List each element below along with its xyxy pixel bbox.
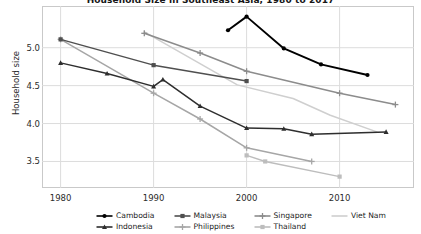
data-point-marker: [226, 28, 230, 32]
legend-label: Philippines: [194, 222, 235, 232]
series-viet-nam: [144, 32, 376, 132]
x-tick-label: 2010: [320, 194, 360, 203]
x-tick-label: 1980: [41, 194, 81, 203]
legend-label: Viet Nam: [351, 211, 386, 221]
data-point-marker: [263, 159, 267, 163]
x-tick-label: 1990: [134, 194, 174, 203]
legend-label: Thailand: [274, 222, 307, 232]
household-size-line-chart: Household Size in Southeast Asia, 1980 t…: [0, 0, 421, 234]
legend-item-viet-nam[interactable]: Viet Nam: [331, 210, 396, 221]
data-point-marker: [180, 213, 184, 217]
legend-swatch-none-icon: [331, 211, 348, 221]
legend-swatch-square-icon: [174, 211, 191, 221]
legend-item-indonesia[interactable]: Indonesia: [96, 221, 165, 232]
legend-swatch-circle-icon: [96, 211, 113, 221]
legend-swatch-triangle-icon: [96, 222, 113, 232]
series-cambodia: [226, 15, 370, 78]
plot-area: [42, 6, 414, 188]
data-point-marker: [245, 153, 249, 157]
legend-item-philippines[interactable]: Philippines: [174, 221, 245, 232]
legend-swatch-plus-icon: [254, 211, 271, 221]
series-line: [247, 155, 340, 176]
data-point-marker: [160, 77, 165, 82]
series-indonesia: [58, 60, 389, 136]
data-point-marker: [152, 63, 156, 67]
chart-legend: CambodiaMalaysiaSingaporeViet NamIndones…: [96, 210, 396, 232]
data-point-marker: [365, 73, 369, 77]
x-tick-label: 2000: [227, 194, 267, 203]
legend-item-cambodia[interactable]: Cambodia: [96, 210, 165, 221]
legend-swatch-plus-icon: [174, 222, 191, 232]
data-point-marker: [245, 79, 249, 83]
data-point-marker: [338, 175, 342, 179]
data-point-marker: [59, 37, 63, 41]
legend-item-singapore[interactable]: Singapore: [254, 210, 322, 221]
data-point-marker: [319, 62, 323, 66]
legend-swatch-square-icon: [254, 222, 271, 232]
legend-label: Indonesia: [116, 222, 153, 232]
data-point-marker: [260, 224, 264, 228]
legend-item-thailand[interactable]: Thailand: [254, 221, 322, 232]
legend-label: Singapore: [274, 211, 312, 221]
legend-label: Malaysia: [194, 211, 227, 221]
series-line: [144, 32, 376, 132]
data-point-marker: [245, 15, 249, 19]
data-point-marker: [282, 46, 286, 50]
data-point-marker: [102, 213, 106, 217]
series-line: [228, 17, 368, 75]
legend-item-malaysia[interactable]: Malaysia: [174, 210, 245, 221]
legend-label: Cambodia: [116, 211, 154, 221]
series-line: [61, 39, 312, 161]
